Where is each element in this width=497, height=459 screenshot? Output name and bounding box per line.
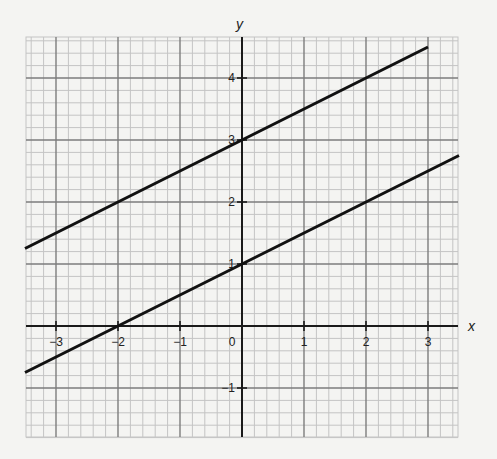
x-tick-label: −1	[173, 335, 187, 349]
x-tick-label: −2	[111, 335, 125, 349]
y-tick-label: −1	[221, 381, 235, 395]
y-axis-label: y	[235, 16, 244, 32]
tick-labels: −3−2−10123−11234	[49, 71, 432, 395]
y-tick-label: 2	[228, 195, 235, 209]
x-tick-label: 3	[425, 335, 432, 349]
y-tick-label: 1	[228, 257, 235, 271]
x-tick-label: 2	[363, 335, 370, 349]
y-tick-label: 4	[228, 71, 235, 85]
y-tick-label: 3	[228, 133, 235, 147]
x-tick-label: 1	[301, 335, 308, 349]
x-tick-label: −3	[49, 335, 63, 349]
x-axis-label: x	[467, 318, 476, 334]
line-upper	[25, 47, 428, 249]
axes	[26, 37, 458, 437]
x-tick-label: 0	[229, 335, 236, 349]
coordinate-graph: −3−2−10123−11234 x y	[0, 0, 497, 459]
